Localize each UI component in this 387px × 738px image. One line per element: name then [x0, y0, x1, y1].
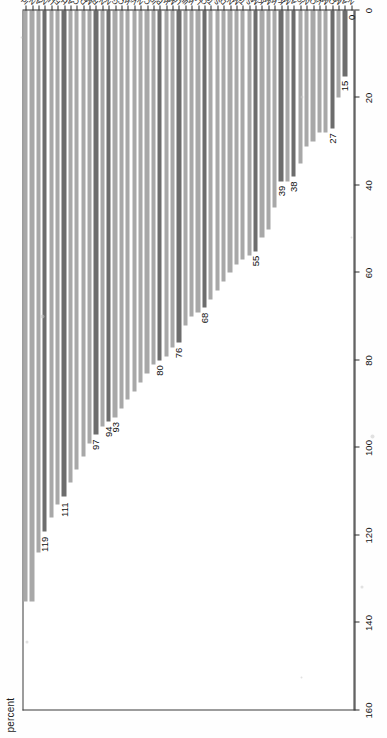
- value-tick-label: 0: [362, 7, 373, 12]
- bar-alabama: [68, 10, 72, 483]
- value-tick-label: 100: [362, 440, 373, 456]
- chart-screenshot: percent IdahoNevadaArizonaNew JerseyUtah…: [0, 0, 387, 738]
- bar-value-label: 76: [172, 347, 183, 358]
- bar-tennessee: [208, 10, 212, 299]
- bar-value-label: 111: [58, 502, 69, 516]
- bar-kansas: [278, 10, 282, 181]
- bar-virginia: [132, 10, 136, 391]
- bar-value-label: 27: [326, 133, 337, 144]
- bar-oklahoma: [330, 10, 334, 128]
- bar-rhode-island: [93, 10, 97, 434]
- value-tick-label: 160: [362, 702, 373, 718]
- bar-west-virginia: [189, 10, 193, 316]
- bar-arkansas: [291, 10, 295, 176]
- bar-mississippi: [266, 10, 270, 229]
- bar-oregon: [202, 10, 206, 308]
- scan-speck: [20, 36, 22, 38]
- scan-speck: [360, 585, 363, 588]
- bar-ohio: [310, 10, 314, 141]
- axis-title-percent: percent: [4, 697, 15, 732]
- bar-south-dakota: [247, 10, 251, 255]
- bar-value-label: 80: [153, 365, 164, 376]
- plot-area-wrapper: percent IdahoNevadaArizonaNew JerseyUtah…: [0, 0, 387, 738]
- scan-speck: [350, 236, 352, 238]
- bar-value-label: 39: [275, 185, 286, 196]
- value-tick-label: 20: [362, 92, 373, 103]
- bar-massachusetts: [253, 10, 257, 251]
- scan-speck: [25, 640, 28, 643]
- value-tick-label: 120: [362, 527, 373, 543]
- bar-value-label: 93: [109, 422, 120, 433]
- value-tick-label: 60: [362, 267, 373, 278]
- bar-new-hampshire: [227, 10, 231, 273]
- bar-iowa: [298, 10, 302, 163]
- bar-value-label: 55: [249, 255, 260, 266]
- value-tick-label: 40: [362, 180, 373, 191]
- bar-value-label: 119: [38, 536, 49, 551]
- bar-us-average: [176, 10, 180, 343]
- bar-kentucky: [259, 10, 263, 238]
- value-axis-baseline: [354, 10, 355, 710]
- bar-new-york: [138, 10, 142, 382]
- bar-florida: [55, 10, 59, 504]
- bar-indiana: [151, 10, 155, 364]
- value-tick-label: 80: [362, 355, 373, 366]
- bar-louisiana: [195, 10, 199, 312]
- bar-maine: [234, 10, 238, 264]
- bar-utah: [49, 10, 53, 518]
- value-axis-line: [22, 9, 354, 10]
- bar-new-mexico: [106, 10, 110, 421]
- bar-value-label: 38: [287, 181, 298, 192]
- bar-california: [119, 10, 123, 408]
- bar-hawaii: [61, 10, 65, 496]
- bar-arizona: [36, 10, 40, 553]
- bar-michigan: [323, 10, 327, 133]
- bar-missouri: [285, 10, 289, 181]
- bar-delaware: [81, 10, 85, 456]
- bar-georgia: [112, 10, 116, 417]
- bar-connecticut: [144, 10, 148, 373]
- bar-new-jersey: [42, 10, 46, 531]
- bar-colorado: [74, 10, 78, 469]
- bar-texas: [240, 10, 244, 259]
- scan-speck: [300, 676, 302, 678]
- bar-maryland: [87, 10, 91, 443]
- bar-value-label: 68: [198, 312, 209, 323]
- bar-nevada: [29, 10, 33, 601]
- scan-speck: [300, 95, 303, 98]
- bar-north-carolina: [100, 10, 104, 426]
- rotated-chart-container: percent IdahoNevadaArizonaNew JerseyUtah…: [0, 0, 387, 738]
- bar-washington: [164, 10, 168, 356]
- bar-nebraska: [304, 10, 308, 146]
- scan-speck: [40, 314, 44, 318]
- bar-idaho: [23, 10, 27, 601]
- bar-value-label: 15: [338, 80, 349, 91]
- bar-value-label: 97: [89, 439, 100, 450]
- bar-wyoming: [125, 10, 129, 399]
- bar-montana: [170, 10, 174, 347]
- bar-wisconsin: [272, 10, 276, 207]
- bar-south-carolina: [215, 10, 219, 290]
- bar-pennsylvania: [157, 10, 161, 360]
- bar-district-of-columbia: [221, 10, 225, 281]
- value-tick-label: 140: [362, 615, 373, 631]
- bar-illinois: [183, 10, 187, 325]
- scan-speck: [370, 434, 374, 438]
- bar-vermont: [317, 10, 321, 133]
